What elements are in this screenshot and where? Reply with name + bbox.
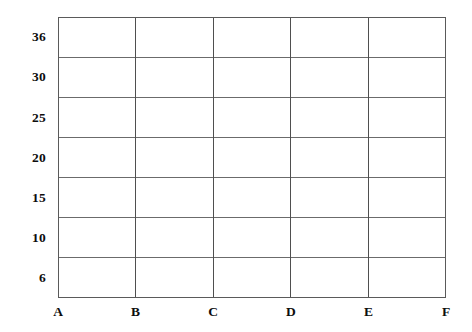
x-axis-tick-label: A: [53, 305, 63, 319]
y-axis-tick-label: 36: [0, 17, 46, 57]
x-axis-tick-label: D: [286, 305, 296, 319]
y-axis-tick-label: 10: [0, 218, 46, 258]
y-axis-tick-label: 25: [0, 97, 46, 137]
y-axis-tick-label: 15: [0, 178, 46, 218]
x-axis-tick-label: B: [131, 305, 140, 319]
grid-column: [291, 18, 368, 297]
grid-column: [136, 18, 213, 297]
x-axis-tick-label: F: [442, 305, 450, 319]
y-axis-tick-label: 30: [0, 57, 46, 97]
x-axis: A B C D E F: [58, 305, 446, 325]
grid-column: [59, 18, 136, 297]
y-axis: 36 30 25 20 15 10 6: [0, 17, 46, 298]
plot-area: [58, 17, 446, 298]
y-axis-tick-label: 20: [0, 137, 46, 177]
y-axis-tick-label: 6: [0, 258, 46, 298]
grid-column: [214, 18, 291, 297]
chart-figure: 36 30 25 20 15 10 6 A B C D E F: [0, 0, 472, 332]
vertical-gridlines: [59, 18, 445, 297]
x-axis-tick-label: C: [208, 305, 218, 319]
x-axis-tick-label: E: [364, 305, 373, 319]
grid-column: [369, 18, 445, 297]
